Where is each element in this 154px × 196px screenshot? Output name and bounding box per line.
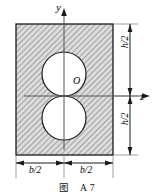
- width-arrow-left-end: [56, 161, 64, 166]
- y-axis-arrowhead: [61, 8, 67, 16]
- y-axis-label: y: [56, 2, 61, 13]
- height-top-dimension-label: h/2: [121, 36, 131, 48]
- figure-caption: 图 A 7: [0, 180, 154, 194]
- width-arrow-right-end: [105, 161, 113, 166]
- height-arrow-top-end: [128, 88, 133, 96]
- height-arrow-top-start: [128, 24, 133, 32]
- width-arrow-right-start: [64, 161, 72, 166]
- width-arrow-left-start: [16, 161, 24, 166]
- width-right-dimension-label: b/2: [80, 166, 92, 176]
- cross-section-diagram: [0, 0, 154, 196]
- height-bottom-dimension-label: h/2: [121, 113, 131, 125]
- origin-label: O: [73, 76, 80, 86]
- height-arrow-bottom-start: [128, 96, 133, 104]
- z-axis-label: z: [140, 92, 144, 102]
- width-left-dimension-label: b/2: [29, 166, 41, 176]
- figure-container: y z O b/2 b/2 h/2 h/2 图 A 7: [0, 0, 154, 196]
- height-arrow-bottom-end: [128, 147, 133, 155]
